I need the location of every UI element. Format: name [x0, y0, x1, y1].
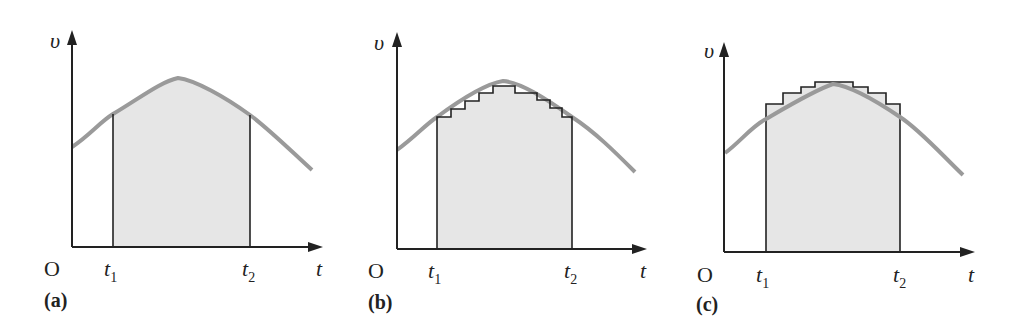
y-axis-label: υ	[50, 30, 60, 52]
x-axis-label: t	[640, 260, 646, 282]
y-axis-arrow	[719, 42, 729, 57]
y-axis-arrow	[392, 32, 402, 47]
t1-label: t1	[104, 258, 117, 285]
caption-a: (a)	[44, 290, 67, 310]
t2-label: t2	[242, 258, 255, 285]
x-axis-arrow	[632, 244, 647, 254]
x-axis-arrow	[308, 242, 323, 252]
t2-label: t2	[564, 260, 577, 287]
panel-a: υ O t1 t2 t (a)	[0, 0, 340, 336]
y-axis-label: υ	[704, 40, 714, 62]
shaded-rectangles	[437, 86, 572, 249]
velocity-area-graph-b	[340, 0, 680, 336]
panel-c: υ O t1 t2 t (c)	[680, 0, 1026, 336]
origin-label: O	[697, 264, 713, 286]
t1-label: t1	[428, 260, 441, 287]
y-axis-arrow	[67, 30, 77, 45]
panel-b: υ O t1 t2 t (b)	[340, 0, 680, 336]
t2-label: t2	[893, 264, 906, 291]
y-axis-label: υ	[374, 32, 384, 54]
x-axis-label: t	[316, 258, 322, 280]
x-axis-label: t	[968, 264, 974, 286]
x-axis-arrow	[960, 247, 975, 257]
t1-label: t1	[756, 264, 769, 291]
caption-c: (c)	[696, 294, 718, 314]
origin-label: O	[44, 258, 60, 280]
caption-b: (b)	[368, 292, 392, 312]
origin-label: O	[368, 260, 384, 282]
